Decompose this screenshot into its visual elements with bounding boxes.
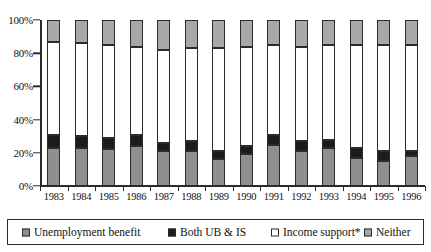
bar-column xyxy=(267,20,280,186)
bar-segment xyxy=(322,148,335,186)
bar-segment xyxy=(350,20,363,45)
bar-segment xyxy=(322,140,335,148)
bar-group xyxy=(40,20,425,186)
legend-item[interactable]: Neither xyxy=(364,226,410,239)
bar-segment xyxy=(102,45,115,138)
y-axis-tick-label: 40% xyxy=(13,114,33,125)
chart-legend: Unemployment benefitBoth UB & ISIncome s… xyxy=(7,219,424,245)
bar-segment xyxy=(267,20,280,45)
bar-segment xyxy=(240,20,253,47)
bar-segment xyxy=(130,20,143,47)
y-axis-tick xyxy=(33,52,40,53)
bar-segment xyxy=(405,45,418,151)
bar-column xyxy=(322,20,335,186)
x-axis-tick-label: 1995 xyxy=(374,191,394,203)
bar-segment xyxy=(102,149,115,186)
bar-segment xyxy=(240,154,253,186)
x-axis-tick-label: 1987 xyxy=(154,191,174,203)
x-axis-tick-label: 1996 xyxy=(401,191,421,203)
bar-segment xyxy=(212,20,225,48)
bar-segment xyxy=(377,20,390,45)
bar-segment xyxy=(377,45,390,151)
bar-segment xyxy=(377,161,390,186)
y-axis-labels: 0%20%40%60%80%100% xyxy=(0,0,36,214)
bar-segment xyxy=(240,47,253,147)
bar-segment xyxy=(75,20,88,43)
bar-segment xyxy=(130,135,143,147)
y-axis-tick xyxy=(33,152,40,153)
legend-swatch-icon xyxy=(271,228,279,236)
bar-segment xyxy=(157,143,170,151)
bar-column xyxy=(130,20,143,186)
bar-column xyxy=(377,20,390,186)
y-axis-tick-label: 60% xyxy=(13,81,33,92)
bar-segment xyxy=(322,45,335,140)
bar-segment xyxy=(130,146,143,186)
bar-column xyxy=(102,20,115,186)
legend-swatch-icon xyxy=(168,228,176,236)
bar-segment xyxy=(47,20,60,42)
bar-segment xyxy=(47,135,60,148)
bar-segment xyxy=(295,20,308,47)
legend-label: Both UB & IS xyxy=(180,226,246,239)
x-axis-tick-label: 1991 xyxy=(264,191,284,203)
bar-column xyxy=(212,20,225,186)
x-axis-tick-label: 1994 xyxy=(346,191,366,203)
bar-column xyxy=(185,20,198,186)
bar-segment xyxy=(295,47,308,142)
x-axis-tick-label: 1988 xyxy=(181,191,201,203)
legend-label: Neither xyxy=(376,226,410,239)
bar-segment xyxy=(405,151,418,156)
legend-items: Unemployment benefitBoth UB & ISIncome s… xyxy=(8,220,423,244)
y-axis-tick-label: 100% xyxy=(8,15,33,26)
bar-segment xyxy=(185,141,198,151)
bar-segment xyxy=(185,20,198,48)
x-axis-tick-label: 1990 xyxy=(236,191,256,203)
x-axis-tick-label: 1986 xyxy=(126,191,146,203)
bar-segment xyxy=(267,145,280,187)
bar-segment xyxy=(322,20,335,45)
stacked-column-chart: 0%20%40%60%80%100% 198319841985198619871… xyxy=(0,0,431,252)
bar-column xyxy=(157,20,170,186)
bar-segment xyxy=(295,151,308,186)
bar-segment xyxy=(405,156,418,186)
bar-segment xyxy=(102,138,115,150)
bar-segment xyxy=(212,159,225,186)
legend-label: Income support* xyxy=(283,226,361,239)
x-axis-tick-label: 1983 xyxy=(44,191,64,203)
bar-column xyxy=(47,20,60,186)
bar-segment xyxy=(350,45,363,148)
bar-column xyxy=(295,20,308,186)
legend-item[interactable]: Income support* xyxy=(271,226,361,239)
bar-column xyxy=(350,20,363,186)
bar-segment xyxy=(75,43,88,136)
legend-item[interactable]: Unemployment benefit xyxy=(22,226,140,239)
bar-segment xyxy=(130,47,143,135)
bar-segment xyxy=(47,148,60,186)
x-axis-tick-label: 1985 xyxy=(99,191,119,203)
x-axis-tick-label: 1993 xyxy=(319,191,339,203)
bar-segment xyxy=(185,151,198,186)
legend-label: Unemployment benefit xyxy=(34,226,140,239)
bar-segment xyxy=(350,148,363,158)
bar-segment xyxy=(185,48,198,141)
y-axis-tick-label: 0% xyxy=(19,181,33,192)
bar-segment xyxy=(267,45,280,135)
y-axis-tick xyxy=(33,119,40,120)
legend-swatch-icon xyxy=(364,228,372,236)
bar-segment xyxy=(47,42,60,135)
plot-area: 0%20%40%60%80%100% 198319841985198619871… xyxy=(0,0,431,214)
x-axis-tick-label: 1984 xyxy=(71,191,91,203)
bar-segment xyxy=(350,158,363,186)
bar-column xyxy=(240,20,253,186)
legend-item[interactable]: Both UB & IS xyxy=(168,226,246,239)
y-axis-tick xyxy=(33,185,40,186)
y-axis-tick-label: 20% xyxy=(13,147,33,158)
bar-segment xyxy=(75,136,88,148)
x-axis-tick xyxy=(425,186,426,191)
y-axis-tick-label: 80% xyxy=(13,48,33,59)
bar-segment xyxy=(212,151,225,159)
bar-column xyxy=(405,20,418,186)
bar-segment xyxy=(405,20,418,45)
bar-segment xyxy=(157,151,170,186)
